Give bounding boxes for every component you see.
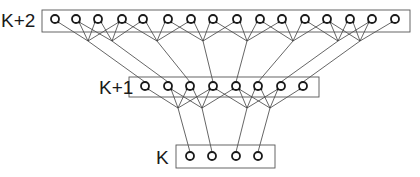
node-top xyxy=(187,15,195,23)
node-top xyxy=(278,15,286,23)
node-middle xyxy=(277,82,285,90)
node-middle xyxy=(186,82,194,90)
edge xyxy=(148,89,178,108)
node-top xyxy=(209,15,217,23)
edge xyxy=(88,41,145,82)
edge xyxy=(281,41,338,82)
edge xyxy=(112,41,168,82)
edge xyxy=(308,22,338,41)
edge xyxy=(88,22,95,41)
node-top xyxy=(72,15,80,23)
node-middle xyxy=(209,82,217,90)
node-bottom xyxy=(254,152,262,160)
node-middle xyxy=(232,82,240,90)
edge xyxy=(125,22,157,41)
layer-label-middle: K+1 xyxy=(99,77,133,98)
node-bottom xyxy=(208,152,216,160)
edge xyxy=(330,22,360,41)
edge xyxy=(303,41,360,82)
node-middle xyxy=(164,82,172,90)
edge xyxy=(203,22,210,41)
node-top xyxy=(323,15,331,23)
edge xyxy=(216,89,247,108)
layer-label-top: K+2 xyxy=(1,10,35,31)
node-top xyxy=(256,15,264,23)
node-top xyxy=(233,15,241,23)
edge xyxy=(203,41,213,82)
node-top xyxy=(164,15,172,23)
node-bottom xyxy=(186,152,194,160)
edge xyxy=(202,89,233,108)
node-top xyxy=(118,15,126,23)
edge xyxy=(112,22,119,41)
edge xyxy=(263,22,293,41)
layered-network-diagram: K+2 K+1 K xyxy=(0,0,420,177)
node-top xyxy=(301,15,309,23)
edge xyxy=(157,41,190,82)
edge xyxy=(216,22,247,41)
node-top xyxy=(368,15,376,23)
edge xyxy=(171,89,178,108)
node-top xyxy=(391,15,399,23)
node-middle xyxy=(254,82,262,90)
edge xyxy=(236,41,247,82)
edge xyxy=(240,22,247,41)
node-middle xyxy=(299,82,307,90)
edge xyxy=(258,41,293,82)
layer-boxes xyxy=(42,10,410,168)
node-top xyxy=(139,15,147,23)
node-bottom xyxy=(232,152,240,160)
edge xyxy=(88,22,119,41)
edge xyxy=(270,89,300,108)
edge xyxy=(112,22,140,41)
layer-label-bottom: K xyxy=(156,147,169,168)
node-top xyxy=(51,15,59,23)
node-top xyxy=(94,15,102,23)
node-top xyxy=(346,15,354,23)
node-middle xyxy=(141,82,149,90)
edge xyxy=(157,22,188,41)
edge xyxy=(203,22,234,41)
